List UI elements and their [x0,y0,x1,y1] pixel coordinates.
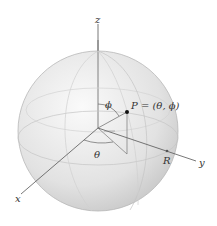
point-label: P = (θ, ϕ) [130,100,180,111]
z-label: z [94,14,101,25]
y-label: y [198,157,205,168]
phi-label: ϕ [105,99,112,110]
point-p [125,110,129,114]
x-label: x [15,193,21,204]
theta-label: θ [94,149,100,160]
radius-label: R [162,155,171,166]
radius-tick [166,150,169,153]
spherical-coordinates-diagram: z x y ϕ θ P = (θ, ϕ) R [0,0,217,226]
